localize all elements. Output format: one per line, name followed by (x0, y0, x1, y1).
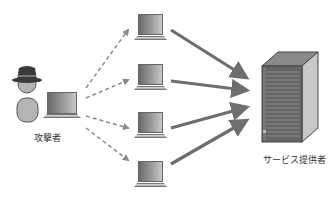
dashed-arrows (86, 30, 128, 160)
attacker-label: 攻撃者 (34, 131, 61, 144)
bot-laptop-icon (134, 161, 170, 189)
service-provider-label: サービス提供者 (263, 153, 326, 166)
server-tower-icon (262, 52, 318, 142)
person-with-hat-icon (12, 66, 42, 122)
bot-laptop-icon (134, 64, 170, 92)
ddos-diagram: 攻撃者 サービス提供者 (0, 0, 333, 206)
bot-laptop-icon (134, 14, 170, 42)
bot-laptop-icon (134, 112, 170, 140)
attacker-laptop-icon (43, 92, 79, 120)
attack-arrows (171, 30, 244, 164)
